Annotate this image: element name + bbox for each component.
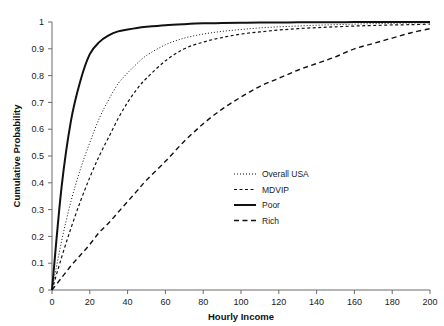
y-axis-title: Cumulative Probability [11, 104, 22, 208]
chart-canvas: 00.10.20.30.40.50.60.70.80.91 0204060801… [0, 0, 444, 326]
x-tick-label: 80 [198, 297, 208, 307]
y-tick-label: 0.1 [31, 258, 44, 268]
legend-label-mdvip: MDVIP [262, 185, 289, 195]
legend-label-overall-usa: Overall USA [262, 169, 309, 179]
y-tick-label: 0 [39, 285, 44, 295]
x-tick-label: 100 [233, 297, 248, 307]
y-tick-label: 0.5 [31, 151, 44, 161]
y-tick-label: 0.2 [31, 232, 44, 242]
y-tick-label: 0.4 [31, 178, 44, 188]
x-axis-tick-labels: 020406080100120140160180200 [49, 297, 437, 307]
y-tick-label: 0.8 [31, 71, 44, 81]
x-tick-label: 140 [309, 297, 324, 307]
x-tick-label: 160 [347, 297, 362, 307]
y-tick-label: 0.9 [31, 44, 44, 54]
series-line-rich [52, 29, 430, 290]
y-tick-label: 1 [39, 17, 44, 27]
x-tick-label: 0 [49, 297, 54, 307]
x-tick-label: 180 [385, 297, 400, 307]
y-tick-label: 0.3 [31, 205, 44, 215]
legend: Overall USAMDVIPPoorRich [234, 169, 309, 226]
legend-label-rich: Rich [262, 216, 279, 226]
x-tick-label: 200 [422, 297, 437, 307]
data-series-group [52, 22, 430, 290]
y-axis-tick-labels: 00.10.20.30.40.50.60.70.80.91 [31, 17, 44, 295]
x-tick-label: 60 [160, 297, 170, 307]
cumulative-probability-chart: 00.10.20.30.40.50.60.70.80.91 0204060801… [0, 0, 444, 326]
x-axis-title: Hourly Income [208, 311, 274, 322]
y-tick-label: 0.7 [31, 98, 44, 108]
series-line-overall-usa [52, 23, 430, 290]
x-tick-label: 20 [85, 297, 95, 307]
x-axis-tick-marks [52, 290, 430, 294]
y-axis-tick-marks [48, 22, 52, 290]
x-tick-label: 40 [123, 297, 133, 307]
y-tick-label: 0.6 [31, 124, 44, 134]
series-line-poor [52, 22, 430, 290]
legend-label-poor: Poor [262, 200, 280, 210]
x-tick-label: 120 [271, 297, 286, 307]
series-line-mdvip [52, 24, 430, 290]
